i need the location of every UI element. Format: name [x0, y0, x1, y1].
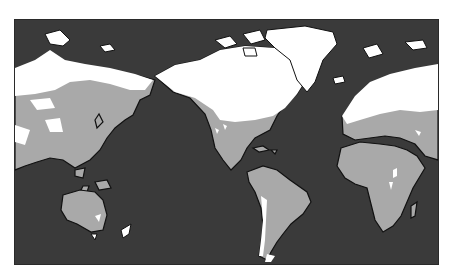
world-map: [14, 19, 439, 265]
australia-region: [61, 190, 131, 240]
africa-region: [337, 142, 425, 232]
map-svg: [15, 20, 438, 264]
south-america-region: [247, 166, 311, 262]
caribbean: [253, 146, 277, 154]
europe-region: [342, 40, 438, 160]
asia-region: [15, 30, 155, 170]
north-america-region: [155, 26, 345, 170]
